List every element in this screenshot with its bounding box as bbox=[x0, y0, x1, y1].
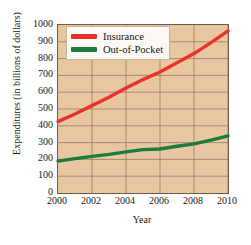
y-axis-tick-labels: 10009008007006005004003002001000 bbox=[0, 24, 53, 192]
legend: InsuranceOut-of-Pocket bbox=[66, 26, 170, 60]
series-line-out-of-pocket bbox=[58, 136, 228, 161]
legend-swatch-icon bbox=[71, 34, 97, 39]
legend-label: Out-of-Pocket bbox=[103, 44, 163, 55]
x-axis-title: Year bbox=[57, 214, 227, 225]
x-axis-tick-labels: 200020022004200620082010 bbox=[57, 195, 227, 209]
y-tick-label: 1000 bbox=[0, 19, 53, 29]
y-tick-label: 700 bbox=[0, 69, 53, 79]
y-tick-label: 400 bbox=[0, 120, 53, 130]
legend-item: Out-of-Pocket bbox=[71, 43, 163, 56]
chart-figure: Expenditures (in billions of dollars) 10… bbox=[0, 0, 251, 245]
legend-label: Insurance bbox=[103, 31, 144, 42]
y-tick-label: 900 bbox=[0, 36, 53, 46]
y-tick-label: 800 bbox=[0, 53, 53, 63]
legend-swatch-icon bbox=[71, 47, 97, 52]
legend-item: Insurance bbox=[71, 30, 163, 43]
y-tick-label: 600 bbox=[0, 86, 53, 96]
y-tick-label: 500 bbox=[0, 103, 53, 113]
y-tick-label: 200 bbox=[0, 153, 53, 163]
y-tick-label: 100 bbox=[0, 170, 53, 180]
x-tick-label: 2010 bbox=[207, 195, 247, 207]
y-tick-label: 300 bbox=[0, 137, 53, 147]
